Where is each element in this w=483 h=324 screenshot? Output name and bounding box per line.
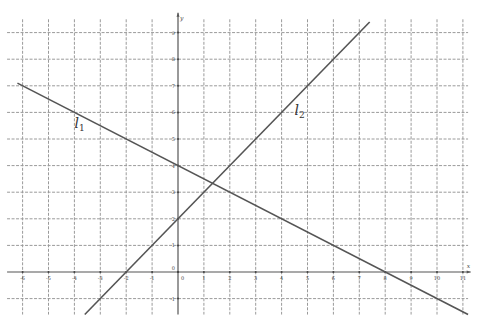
y-tick-label: 8 <box>172 56 175 62</box>
x-tick-mark <box>22 271 24 273</box>
label-l2: l2 <box>295 102 305 120</box>
y-tick-label: 6 <box>172 109 175 115</box>
y-tick-mark <box>177 32 179 34</box>
x-tick-label: 2 <box>228 275 231 281</box>
x-tick-label: -4 <box>72 275 77 281</box>
y-tick-mark <box>177 191 179 193</box>
label-l1: l1 <box>74 115 84 133</box>
y-tick-mark <box>177 138 179 140</box>
y-tick-mark <box>177 58 179 60</box>
x-tick-mark <box>332 271 334 273</box>
y-tick-label: 2 <box>172 216 175 222</box>
y-tick-label: 7 <box>172 83 175 89</box>
axes: xy <box>7 13 471 315</box>
y-axis-name: y <box>179 14 184 22</box>
x-tick-label: 9 <box>410 275 413 281</box>
grid <box>7 19 468 314</box>
data-lines <box>17 22 468 315</box>
x-tick-label: 7 <box>358 275 361 281</box>
y-tick-mark <box>177 244 179 246</box>
x-tick-label: -2 <box>124 275 129 281</box>
x-axis-arrow-icon <box>467 271 471 274</box>
x-tick-mark <box>99 271 101 273</box>
x-tick-label: -1 <box>150 275 155 281</box>
line-labels: l1l2 <box>74 102 304 133</box>
x-tick-label: 1 <box>202 275 205 281</box>
x-tick-label: -3 <box>98 275 103 281</box>
x-tick-mark <box>462 271 464 273</box>
line-l1 <box>17 83 468 314</box>
y-tick-label: -1 <box>170 296 175 302</box>
y-tick-mark <box>177 271 179 273</box>
x-tick-mark <box>358 271 360 273</box>
x-tick-mark <box>281 271 283 273</box>
y-tick-label: 3 <box>172 189 175 195</box>
x-tick-mark <box>410 271 412 273</box>
y-tick-mark <box>177 111 179 113</box>
x-tick-mark <box>151 271 153 273</box>
x-tick-mark <box>307 271 309 273</box>
x-tick-label: -6 <box>20 275 25 281</box>
x-tick-label: 4 <box>280 275 283 281</box>
y-tick-label: 1 <box>172 242 175 248</box>
x-tick-label: 10 <box>434 275 440 281</box>
coordinate-plot: xy -6-5-4-3-2-11234567891011-11234567890… <box>0 0 483 324</box>
x-tick-label: 11 <box>460 275 466 281</box>
y-tick-mark <box>177 85 179 87</box>
x-tick-label: 5 <box>306 275 309 281</box>
x-tick-label: 3 <box>254 275 257 281</box>
x-axis-name: x <box>467 262 471 269</box>
line-l2 <box>85 22 370 315</box>
x-tick-mark <box>203 271 205 273</box>
origin-label-x: 0 <box>181 275 184 281</box>
x-tick-mark <box>255 271 257 273</box>
y-tick-label: 5 <box>172 136 175 142</box>
x-tick-label: 6 <box>332 275 335 281</box>
x-tick-label: 8 <box>384 275 387 281</box>
origin-label: 0 <box>172 265 175 271</box>
x-tick-mark <box>229 271 231 273</box>
y-tick-label: 9 <box>172 30 175 36</box>
x-tick-label: -5 <box>46 275 51 281</box>
y-tick-mark <box>177 298 179 300</box>
x-tick-mark <box>48 271 50 273</box>
x-tick-mark <box>73 271 75 273</box>
x-tick-mark <box>436 271 438 273</box>
